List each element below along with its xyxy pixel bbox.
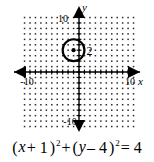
grid-dot <box>127 33 129 35</box>
grid-dot <box>111 33 113 35</box>
grid-dot <box>106 50 108 52</box>
grid-dot <box>40 77 42 79</box>
grid-dot <box>40 44 42 46</box>
grid-dot <box>133 33 135 35</box>
x-axis-min-tick-label: -10 <box>20 76 33 87</box>
grid-dot <box>89 93 91 95</box>
grid-dot <box>29 60 31 62</box>
grid-dot <box>116 60 118 62</box>
grid-dot <box>24 39 26 41</box>
grid-dot <box>46 93 48 95</box>
grid-dot <box>46 44 48 46</box>
graph-svg: 2 y x 10 -10 -10 10 <box>0 0 154 134</box>
grid-dot <box>122 66 124 68</box>
grid-dot <box>51 28 53 30</box>
grid-dot <box>35 77 37 79</box>
grid-dot <box>89 77 91 79</box>
grid-dot <box>35 50 37 52</box>
grid-dot <box>67 33 69 35</box>
grid-dot <box>100 115 102 117</box>
grid-dot <box>84 104 86 106</box>
grid-dot <box>100 109 102 111</box>
grid-dot <box>95 88 97 90</box>
grid-dot <box>133 120 135 122</box>
grid-dot <box>133 126 135 128</box>
grid-dot <box>62 60 64 62</box>
grid-dot <box>46 104 48 106</box>
grid-dot <box>95 82 97 84</box>
grid-dot <box>106 33 108 35</box>
grid-dot <box>57 33 59 35</box>
grid-dot <box>127 39 129 41</box>
grid-dot <box>89 120 91 122</box>
grid-dot <box>62 104 64 106</box>
grid-dot <box>40 66 42 68</box>
grid-dot <box>133 66 135 68</box>
grid-dot <box>67 28 69 30</box>
grid-dot <box>116 77 118 79</box>
grid-dot <box>29 99 31 101</box>
math-graph-figure: 2 y x 10 -10 -10 10 (x+ 1)2+(y– 4)2= 4 <box>0 0 154 162</box>
grid-dot <box>127 44 129 46</box>
grid-dot <box>100 55 102 57</box>
grid-dot <box>73 93 75 95</box>
grid-dot <box>100 28 102 30</box>
grid-dot <box>122 126 124 128</box>
grid-dot <box>24 55 26 57</box>
grid-dot <box>84 115 86 117</box>
y-axis-max-tick-label: 10 <box>58 13 68 24</box>
grid-dot <box>100 60 102 62</box>
grid-dot <box>133 115 135 117</box>
grid-dot <box>106 39 108 41</box>
equation-open-paren-1: ( <box>11 139 18 156</box>
grid-dot <box>127 60 129 62</box>
grid-dot <box>46 77 48 79</box>
grid-dot <box>133 55 135 57</box>
grid-dot <box>111 126 113 128</box>
grid-dot <box>122 77 124 79</box>
grid-dot <box>51 50 53 52</box>
grid-dot <box>106 44 108 46</box>
grid-dot <box>62 77 64 79</box>
grid-dot <box>84 82 86 84</box>
grid-dot <box>111 120 113 122</box>
grid-dot <box>95 93 97 95</box>
grid-dot <box>116 82 118 84</box>
grid-dot <box>40 22 42 24</box>
grid-dot <box>122 33 124 35</box>
grid-dot <box>95 104 97 106</box>
grid-dot <box>40 109 42 111</box>
grid-dot <box>127 93 129 95</box>
grid-dot <box>51 39 53 41</box>
grid-dot <box>40 93 42 95</box>
grid-dot <box>95 66 97 68</box>
grid-dot <box>95 39 97 41</box>
grid-dot <box>29 104 31 106</box>
grid-dot <box>35 22 37 24</box>
grid-dot <box>40 39 42 41</box>
grid-dot <box>122 44 124 46</box>
grid-dot <box>127 88 129 90</box>
grid-dot <box>51 55 53 57</box>
grid-dot <box>111 50 113 52</box>
grid-dot <box>51 82 53 84</box>
grid-dot <box>106 109 108 111</box>
grid-dot <box>57 104 59 106</box>
grid-dot <box>35 88 37 90</box>
grid-dot <box>116 93 118 95</box>
grid-dot <box>57 126 59 128</box>
equation-text: (x+ 1)2+(y– 4)2= 4 <box>11 138 143 156</box>
grid-dot <box>111 115 113 117</box>
x-axis-max-tick-label: 10 <box>125 76 135 87</box>
grid-dot <box>35 17 37 19</box>
grid-dot <box>111 44 113 46</box>
grid-dot <box>67 109 69 111</box>
grid-dot <box>100 93 102 95</box>
grid-dot <box>95 120 97 122</box>
grid-dot <box>111 77 113 79</box>
grid-dot <box>111 82 113 84</box>
grid-dot <box>127 22 129 24</box>
grid-dot <box>46 88 48 90</box>
grid-dot <box>84 88 86 90</box>
grid-dot <box>35 28 37 30</box>
